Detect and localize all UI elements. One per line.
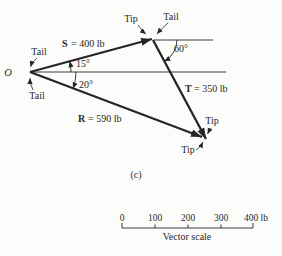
figure-caption: (c) [130, 169, 141, 181]
scale-tick-0: 0 [120, 213, 125, 223]
scale-tick-100: 100 [148, 213, 163, 223]
vector-t-value: = 350 lb [194, 83, 227, 94]
leader-tail-top [157, 23, 168, 34]
angle-arc-20deg [73, 72, 76, 88]
scale-tick-400: 400 lb [244, 213, 268, 223]
tail-top-label: Tail [163, 11, 179, 22]
vector-s-symbol: S [62, 38, 68, 49]
scale-tick-200: 200 [181, 213, 196, 223]
scale-tick-300: 300 [214, 213, 229, 223]
scale-bar-caption: Vector scale [163, 231, 212, 242]
tail-lower-left-label: Tail [29, 90, 45, 101]
tip-top-label: Tip [124, 13, 138, 24]
origin-label: O [4, 67, 12, 78]
angle-s-label: 15° [76, 58, 90, 69]
leader-tip-r [196, 142, 203, 150]
scale-bar-line [122, 223, 253, 228]
leader-tail-upper-left [31, 58, 38, 67]
angle-t-label: 60° [174, 43, 188, 54]
vector-diagram: Tip Tail Tail O Tail Tip Tip S = 400 lb … [0, 0, 282, 256]
vector-r-value: = 590 lb [88, 113, 121, 124]
vector-r-symbol: R [78, 113, 86, 124]
tip-r-label: Tip [181, 144, 195, 155]
leader-tip-top [138, 25, 146, 34]
tip-t-label: Tip [205, 115, 219, 126]
leader-tail-lower-left [30, 78, 33, 90]
vector-t-symbol: T [185, 83, 192, 94]
figure-page: Tip Tail Tail O Tail Tip Tip S = 400 lb … [0, 0, 282, 256]
leader-tip-t [208, 128, 212, 134]
angle-arc-15deg [70, 61, 71, 72]
vector-s-value: = 400 lb [71, 38, 104, 49]
angle-r-label: 20° [79, 79, 93, 90]
tail-upper-left-label: Tail [31, 46, 47, 57]
